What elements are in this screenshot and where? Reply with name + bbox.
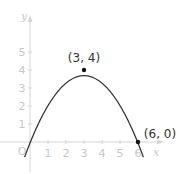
- root-point: [136, 140, 140, 144]
- x-tick-label: 3: [81, 147, 88, 160]
- vertex-point: [82, 68, 86, 72]
- root-label: (6, 0): [144, 127, 176, 141]
- chart: 1 2 3 4 5 6 1 2 3 4 5 O x y (3, 4) (6, 0…: [0, 0, 180, 174]
- y-tick-label: 2: [19, 100, 26, 113]
- vertex-label: (3, 4): [68, 51, 100, 65]
- x-tick-label: 1: [45, 147, 52, 160]
- y-tick-label: 1: [19, 118, 26, 131]
- y-tick-label: 4: [19, 64, 26, 77]
- y-tick-label: 3: [19, 82, 26, 95]
- y-axis-label: y: [20, 10, 28, 23]
- x-tick-label: 4: [99, 147, 106, 160]
- parabola-curve: [25, 76, 144, 158]
- y-axis-arrow-icon: [28, 15, 33, 22]
- x-axis-label: x: [153, 146, 160, 159]
- x-tick-label: 2: [63, 147, 70, 160]
- x-tick-label: 5: [117, 147, 124, 160]
- y-tick-label: 5: [19, 46, 26, 59]
